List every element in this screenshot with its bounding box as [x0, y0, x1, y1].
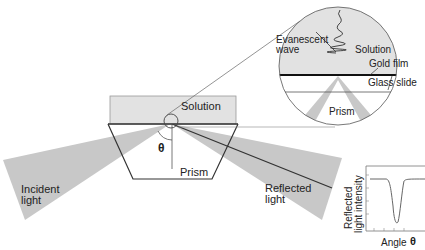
incident-light-label-2: light [21, 194, 41, 206]
inset-prism-label: Prism [329, 106, 355, 117]
plot-ylabel-2: light intensity [353, 175, 364, 233]
angle-arc [158, 131, 172, 140]
solution-label: Solution [181, 100, 221, 112]
prism-label: Prism [180, 166, 208, 178]
evanescent-label-2: wave [275, 44, 300, 55]
gold-film-label: Gold film [369, 58, 408, 69]
spr-diagram: Solution Prism θ Incident light Reflecte… [0, 0, 425, 250]
reflectance-curve [370, 179, 425, 223]
reflected-light-label-2: light [265, 193, 285, 205]
glass-slide-label: Glass slide [368, 77, 417, 88]
inset-solution-label: Solution [355, 44, 391, 55]
plot-xlabel-theta: θ [410, 235, 416, 247]
theta-label: θ [158, 141, 165, 155]
plot-xlabel: Angle [381, 237, 407, 248]
reflectance-plot: Reflected light intensity Angle θ [343, 166, 425, 248]
